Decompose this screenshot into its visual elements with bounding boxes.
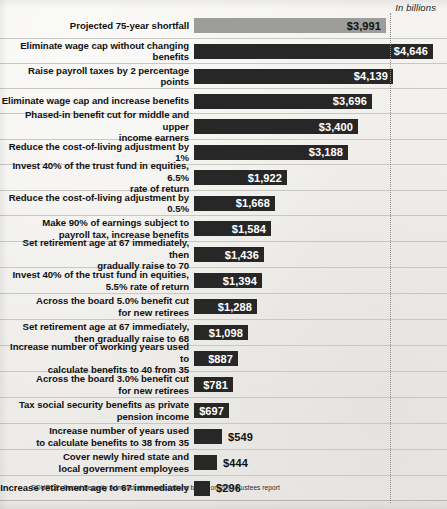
bar-area: $781 [194, 372, 447, 397]
value-bar: $1,288 [194, 299, 257, 314]
bar-row: Invest 40% of the trust fund in equities… [0, 165, 447, 191]
bar-row-label-line1: Reduce the cost-of-living adjustment by … [9, 192, 189, 214]
value-bar: $1,098 [194, 325, 248, 340]
bar-row-label-line1: Increase number of years used [49, 425, 189, 436]
bar-area: $1,922 [194, 165, 447, 190]
bar-row-label: Eliminate wage cap without changing bene… [0, 40, 194, 63]
bar-value-label: $781 [203, 379, 233, 391]
bar-area: $1,436 [194, 242, 447, 267]
bar-value-label: $1,394 [223, 275, 262, 287]
bar-value-label: $4,646 [394, 45, 433, 57]
bar-row: Increase number of working years used to… [0, 346, 447, 372]
bar-row-label-line1: Eliminate wage cap and increase benefits [2, 95, 189, 106]
bar-area: $697 [194, 398, 447, 423]
bar-row: Projected 75-year shortfall$3,991 [0, 13, 447, 39]
page-edge-shading-top [0, 0, 447, 9]
bar-row: Cover newly hired state andlocal governm… [0, 450, 447, 476]
bar-row-label-line2: for new retirees [0, 307, 189, 318]
bar-area: $1,098 [194, 320, 447, 345]
bar-row-label-line2: local government employees [0, 463, 189, 474]
bar-chart-figure: In billions Projected 75-year shortfall$… [0, 0, 447, 509]
bar-row-label-line1: Set retirement age at 67 immediately, th… [23, 237, 189, 259]
bar-row: Invest 40% of the trust fund in equities… [0, 268, 447, 294]
bar-area: $1,584 [194, 216, 447, 241]
bar-row-label-line2: 5.5% rate of return [0, 281, 189, 292]
bar-row-label: Across the board 3.0% benefit cutfor new… [0, 373, 194, 396]
bar-row-label: Invest 40% of the trust fund in equities… [0, 160, 194, 194]
bar-row-label: Set retirement age at 67 immediately, th… [0, 237, 194, 271]
bar-row-label: Tax social security benefits as privatep… [0, 399, 194, 422]
value-bar [194, 429, 222, 444]
bar-value-label: $549 [228, 431, 253, 443]
bar-rows-list: Projected 75-year shortfall$3,991Elimina… [0, 13, 447, 501]
bar-row-label-line1: Eliminate wage cap without changing bene… [20, 40, 189, 62]
bar-row: Phased-in benefit cut for middle and upp… [0, 114, 447, 140]
bar-value-label: $887 [208, 353, 238, 365]
bar-row-label-line1: Invest 40% of the trust fund in equities… [12, 160, 189, 182]
bar-row-label-line1: Raise payroll taxes by 2 percentage poin… [28, 65, 189, 87]
bar-row-label-line1: Make 90% of earnings subject to [42, 217, 189, 228]
bar-row-label-line1: Projected 75-year shortfall [70, 20, 189, 31]
bar-value-label: $1,436 [225, 249, 264, 261]
bar-value-label: $697 [199, 405, 229, 417]
bar-value-label: $3,991 [347, 20, 386, 32]
value-bar: $1,436 [194, 247, 264, 262]
bar-area: $4,139 [194, 64, 447, 88]
value-bar: $4,139 [194, 69, 393, 84]
bar-row-label-line2: to calculate benefits to 38 from 35 [0, 437, 189, 448]
bar-value-label: $1,288 [218, 301, 257, 313]
bar-row: Eliminate wage cap without changing bene… [0, 39, 447, 64]
bar-area: $887 [194, 346, 447, 371]
bar-row-label-line1: Set retirement age at 67 immediately, [23, 321, 189, 332]
value-bar [194, 455, 217, 470]
bar-row: Set retirement age at 67 immediately, th… [0, 242, 447, 268]
bar-row-label: Eliminate wage cap and increase benefits [0, 95, 194, 106]
bar-value-label: $1,098 [209, 327, 248, 339]
bar-area: $549 [194, 424, 447, 449]
bar-area: $1,668 [194, 191, 447, 215]
bar-row: Increase number of years usedto calculat… [0, 424, 447, 450]
bar-area: $1,288 [194, 294, 447, 319]
bar-row-label-line1: Cover newly hired state and [63, 451, 189, 462]
bar-row-label: Raise payroll taxes by 2 percentage poin… [0, 65, 194, 88]
bar-value-label: $4,139 [354, 70, 393, 82]
bar-row-label-line1: Tax social security benefits as private [19, 399, 189, 410]
bar-row-label-line2: pension income [0, 411, 189, 422]
bar-row-label-line1: Across the board 5.0% benefit cut [36, 295, 189, 306]
bar-area: $3,696 [194, 89, 447, 113]
bar-value-label: $3,188 [309, 146, 348, 158]
source-note: SOURCE: Social Security Administration c… [31, 484, 280, 491]
bar-value-label: $1,584 [232, 223, 271, 235]
bar-row-label: Across the board 5.0% benefit cutfor new… [0, 295, 194, 318]
bar-value-label: $1,922 [248, 172, 287, 184]
value-bar: $1,394 [194, 273, 262, 288]
bar-value-label: $3,696 [333, 95, 372, 107]
bar-row-label: Reduce the cost-of-living adjustment by … [0, 192, 194, 215]
bar-row-label: Invest 40% of the trust fund in equities… [0, 269, 194, 292]
bar-row-label: Cover newly hired state andlocal governm… [0, 451, 194, 474]
value-bar: $3,696 [194, 94, 372, 109]
bar-value-label: $3,400 [319, 121, 358, 133]
value-bar: $1,668 [194, 196, 275, 211]
value-bar: $1,584 [194, 221, 271, 236]
bar-area: $3,400 [194, 114, 447, 139]
bar-row: Across the board 5.0% benefit cutfor new… [0, 294, 447, 320]
bar-area: $3,991 [194, 13, 447, 38]
bar-row: Across the board 3.0% benefit cutfor new… [0, 372, 447, 398]
bar-row-label-line1: Increase number of working years used to [10, 341, 189, 363]
bar-area: $1,394 [194, 268, 447, 293]
bar-value-label: $444 [223, 457, 248, 469]
value-bar: $4,646 [194, 44, 433, 59]
bar-row-label: Increase number of working years used to… [0, 341, 194, 375]
bar-row-label-line1: Invest 40% of the trust fund in equities… [12, 269, 189, 280]
value-bar: $1,922 [194, 170, 287, 185]
unit-label: In billions [395, 2, 436, 13]
bar-row-label-line1: Phased-in benefit cut for middle and upp… [25, 109, 189, 131]
bar-row-label: Phased-in benefit cut for middle and upp… [0, 109, 194, 143]
bar-area: $4,646 [194, 39, 447, 63]
value-bar: $3,188 [194, 145, 348, 160]
value-bar: $697 [194, 403, 229, 418]
bar-row-label: Projected 75-year shortfall [0, 20, 194, 31]
bar-row: Raise payroll taxes by 2 percentage poin… [0, 64, 447, 89]
bar-value-label: $1,668 [236, 197, 275, 209]
